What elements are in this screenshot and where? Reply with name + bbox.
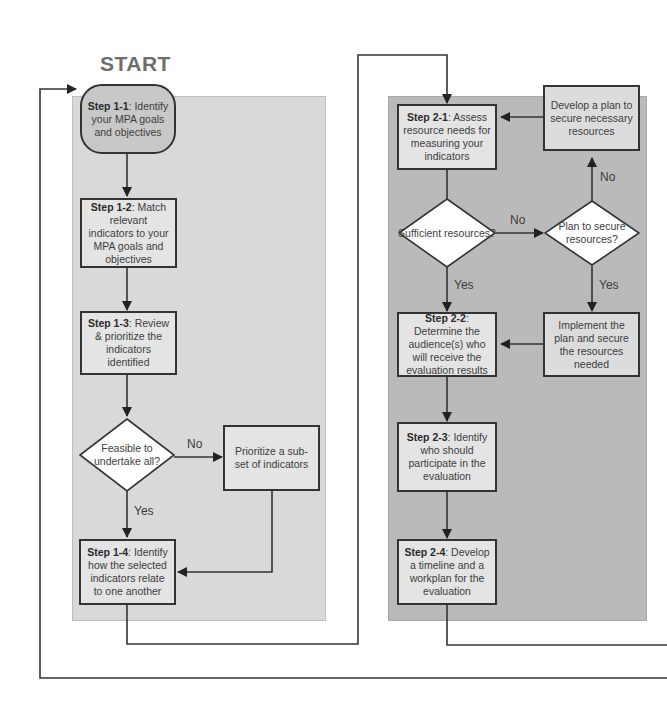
- step-2-3-box: Step 2-3: Identify who should participat…: [397, 422, 497, 492]
- edge-label-yes-1: Yes: [454, 278, 474, 292]
- step-2-2-box: Step 2-2: Determine the audience(s) who …: [397, 312, 497, 377]
- edge-label-no-1: No: [510, 213, 525, 227]
- step-1-1-box: Step 1-1: Identify your MPA goals and ob…: [80, 84, 176, 154]
- sufficient-resources-decision: Sufficient resources?: [398, 198, 496, 268]
- edge-label-yes: Yes: [134, 504, 154, 518]
- implement-plan-box: Implement the plan and secure the resour…: [543, 312, 640, 377]
- edge-label-yes-2: Yes: [599, 278, 619, 292]
- develop-plan-box: Develop a plan to secure necessary resou…: [543, 85, 640, 151]
- feasible-decision: Feasible to undertake all?: [79, 418, 175, 492]
- prioritize-subset-box: Prioritize a sub-set of indicators: [223, 425, 320, 491]
- step-1-2-box: Step 1-2: Match relevant indicators to y…: [80, 198, 177, 268]
- step-2-1-box: Step 2-1: Assess resource needs for meas…: [397, 104, 497, 170]
- plan-to-secure-decision: Plan to secure resources?: [544, 200, 640, 266]
- edge-label-no-2: No: [600, 170, 615, 184]
- step-1-3-box: Step 1-3: Review & prioritize the indica…: [80, 311, 177, 375]
- step-1-4-box: Step 1-4: Identify how the selected indi…: [79, 539, 176, 605]
- edge-label-no: No: [187, 437, 202, 451]
- step-2-4-box: Step 2-4: Develop a timeline and a workp…: [397, 539, 497, 605]
